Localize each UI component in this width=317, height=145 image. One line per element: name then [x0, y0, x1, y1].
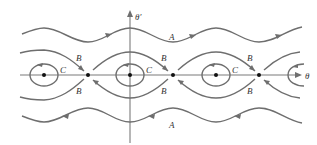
saddle-point — [171, 73, 175, 77]
flow-arrow-icon — [37, 63, 43, 67]
phase-portrait: θ θ′ A A B B B B B B C C C — [0, 0, 317, 145]
theta-prime-axis-label: θ′ — [135, 12, 142, 22]
saddle-point — [257, 73, 261, 77]
label-c: C — [232, 65, 239, 75]
label-c: C — [146, 65, 153, 75]
label-b: B — [161, 53, 167, 63]
label-b: B — [76, 53, 82, 63]
saddle-point — [86, 73, 90, 77]
flow-arrow-icon — [123, 63, 129, 67]
center-point — [128, 73, 132, 77]
separatrix-lower — [20, 79, 84, 100]
label-b: B — [76, 86, 82, 96]
separatrix-lower — [178, 79, 255, 98]
label-b: B — [247, 86, 253, 96]
center-point — [42, 73, 46, 77]
flow-arrow-icon — [209, 63, 215, 67]
center-point — [214, 73, 218, 77]
theta-prime-axis-arrow-icon — [127, 10, 133, 17]
label-b: B — [247, 53, 253, 63]
label-c: C — [60, 65, 67, 75]
separatrix-lower — [264, 80, 300, 98]
label-b: B — [161, 86, 167, 96]
label-a-bottom: A — [168, 120, 175, 130]
theta-axis-label: θ — [305, 71, 310, 81]
rotation-orbit-top — [22, 27, 302, 42]
separatrix-upper — [178, 52, 255, 71]
separatrix-upper — [20, 50, 84, 71]
label-a-top: A — [168, 32, 175, 42]
theta-axis-arrow-icon — [295, 72, 302, 78]
